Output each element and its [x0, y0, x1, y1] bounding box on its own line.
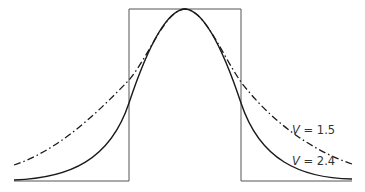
label-v-1-5: V = 1.5 [292, 123, 335, 137]
diagram-canvas: V = 1.5 V = 2.4 [0, 0, 365, 192]
curve-v-1-5 [14, 9, 352, 165]
label-v-2-4: V = 2.4 [292, 154, 335, 168]
